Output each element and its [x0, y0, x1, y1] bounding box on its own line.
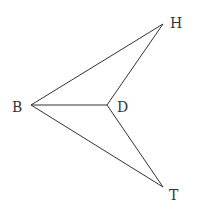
edge-D-T	[107, 105, 163, 187]
edge-B-T	[31, 105, 163, 187]
node-label-D: D	[117, 99, 128, 115]
node-label-T: T	[169, 187, 179, 203]
node-label-B: B	[12, 99, 22, 115]
node-label-H: H	[170, 15, 182, 31]
edge-D-H	[107, 24, 163, 105]
edge-B-H	[31, 24, 163, 105]
diagram-canvas: H B D T	[0, 0, 197, 216]
